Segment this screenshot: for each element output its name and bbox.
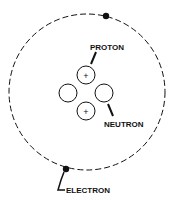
neutron-left bbox=[59, 84, 77, 102]
electron-label: ELECTRON bbox=[66, 186, 110, 195]
neutron-leader bbox=[108, 104, 113, 116]
proton-top-plus: + bbox=[83, 71, 88, 81]
proton-leader bbox=[91, 52, 96, 64]
proton-bottom-plus: + bbox=[83, 107, 88, 117]
proton-label: PROTON bbox=[90, 43, 124, 52]
electron-orbit bbox=[9, 14, 165, 170]
atom-diagram: + + PROTON NEUTRON ELECTRON bbox=[0, 0, 173, 207]
electron-leader bbox=[58, 172, 65, 190]
neutron-label: NEUTRON bbox=[104, 120, 144, 129]
electron-bottom bbox=[63, 166, 69, 172]
atom-diagram-svg: + + PROTON NEUTRON ELECTRON bbox=[0, 0, 173, 207]
electron-top bbox=[103, 13, 109, 19]
neutron-right bbox=[95, 84, 113, 102]
